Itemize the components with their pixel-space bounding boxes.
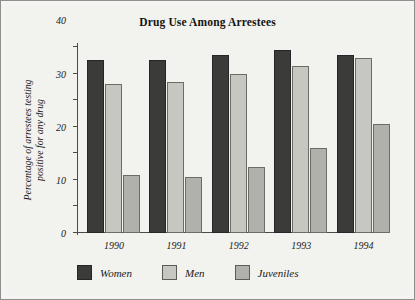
bar-women-1990[interactable] bbox=[87, 60, 104, 233]
bar-juveniles-1992[interactable] bbox=[248, 167, 265, 233]
bar-juveniles-1993[interactable] bbox=[310, 148, 327, 233]
legend-item-women[interactable]: Women bbox=[77, 265, 132, 280]
bar-group: 1991 bbox=[149, 47, 203, 233]
y-tick-label: 10 bbox=[56, 174, 66, 185]
y-tick-mark: 30 bbox=[73, 152, 77, 153]
y-tick-mark: 60 bbox=[73, 73, 77, 74]
bar-group: 1990 bbox=[87, 47, 141, 233]
y-tick-label: 30 bbox=[56, 68, 66, 79]
y-tick-label: 0 bbox=[61, 228, 66, 239]
x-axis-label-1994: 1994 bbox=[337, 240, 391, 251]
bar-men-1992[interactable] bbox=[230, 74, 247, 233]
y-tick-mark: 10 bbox=[73, 205, 77, 206]
bar-women-1992[interactable] bbox=[212, 55, 229, 233]
bar-men-1994[interactable] bbox=[355, 58, 372, 233]
x-axis-label-1992: 1992 bbox=[212, 240, 266, 251]
plot-area: 010203040506070 19901991199219931994 bbox=[77, 47, 389, 233]
x-axis-label-1993: 1993 bbox=[274, 240, 328, 251]
y-axis-line bbox=[77, 43, 78, 235]
bar-group: 1993 bbox=[274, 47, 328, 233]
bar-juveniles-1990[interactable] bbox=[123, 175, 140, 233]
bar-women-1994[interactable] bbox=[337, 55, 354, 233]
legend-label: Women bbox=[100, 267, 132, 279]
bar-women-1993[interactable] bbox=[274, 50, 291, 233]
y-tick-mark: 0 bbox=[73, 232, 77, 233]
bar-women-1991[interactable] bbox=[149, 60, 166, 233]
y-tick-label: 40 bbox=[56, 15, 66, 26]
y-tick-mark: 70 bbox=[73, 46, 77, 47]
legend-label: Men bbox=[185, 267, 205, 279]
legend-swatch-icon bbox=[235, 265, 250, 280]
x-axis-label-1991: 1991 bbox=[149, 240, 203, 251]
legend-swatch-icon bbox=[162, 265, 177, 280]
y-tick-mark: 40 bbox=[73, 126, 77, 127]
y-axis-title-line-1: Percentage of arrestees testing bbox=[22, 80, 35, 201]
y-axis-title: Percentage of arrestees testing positive… bbox=[19, 47, 49, 233]
x-axis-label-1990: 1990 bbox=[87, 240, 141, 251]
bar-men-1990[interactable] bbox=[105, 84, 122, 233]
bar-juveniles-1991[interactable] bbox=[185, 177, 202, 233]
bar-group: 1992 bbox=[212, 47, 266, 233]
legend-item-juveniles[interactable]: Juveniles bbox=[235, 265, 299, 280]
bar-juveniles-1994[interactable] bbox=[373, 124, 390, 233]
bar-men-1993[interactable] bbox=[292, 66, 309, 233]
bar-men-1991[interactable] bbox=[167, 82, 184, 233]
figure-plate: Drug Use Among Arrestees Percentage of a… bbox=[5, 5, 410, 295]
legend-label: Juveniles bbox=[258, 267, 299, 279]
chart-figure: Drug Use Among Arrestees Percentage of a… bbox=[0, 0, 415, 300]
legend-swatch-icon bbox=[77, 265, 92, 280]
legend: WomenMenJuveniles bbox=[77, 265, 328, 280]
y-tick-mark: 50 bbox=[73, 99, 77, 100]
y-tick-label: 20 bbox=[56, 121, 66, 132]
legend-item-men[interactable]: Men bbox=[162, 265, 205, 280]
y-axis-title-line-2: positive for any drug bbox=[34, 99, 47, 181]
y-tick-mark: 20 bbox=[73, 179, 77, 180]
bar-group: 1994 bbox=[337, 47, 391, 233]
